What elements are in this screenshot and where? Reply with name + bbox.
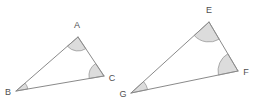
vertex-label-f: F [243,67,249,77]
vertex-label-e: E [206,5,212,15]
triangle-edge-ab [16,37,78,91]
triangle-edge-bc [16,76,104,91]
vertex-label-c: C [109,73,116,83]
triangle-edge-gf [131,71,238,93]
vertex-label-a: A [74,20,80,30]
angle-marks-layer [16,22,238,93]
vertex-labels-layer: ABCEGF [5,5,249,99]
geometry-figure: ABCEGF [0,0,256,106]
vertex-label-g: G [119,89,126,99]
vertex-label-b: B [5,87,11,97]
figure-canvas: ABCEGF [0,0,256,106]
triangle-edge-eg [131,22,209,93]
